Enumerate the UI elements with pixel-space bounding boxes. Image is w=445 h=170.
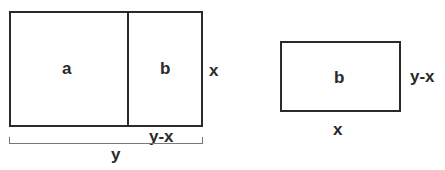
- bracket-right-tick: [202, 137, 203, 144]
- width-bracket: [9, 143, 203, 144]
- divider-line: [127, 11, 129, 127]
- bracket-left-tick: [9, 137, 10, 144]
- right-side-label: y-x: [410, 68, 435, 85]
- side-x-label: x: [209, 62, 218, 79]
- right-bottom-label: x: [333, 121, 342, 138]
- total-width-y-label: y: [111, 146, 120, 163]
- region-b-label: b: [160, 60, 170, 77]
- right-region-b-label: b: [334, 69, 344, 86]
- left-rectangle: [9, 11, 203, 127]
- region-a-label: a: [62, 60, 71, 77]
